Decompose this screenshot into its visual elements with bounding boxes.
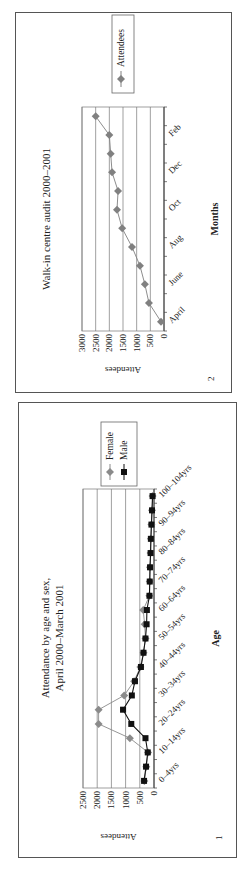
y-tick-label: 2500	[78, 791, 88, 810]
legend: FemaleMale	[101, 422, 137, 486]
chart-title-line1: Attendance by age and sex,	[39, 577, 51, 698]
square-marker	[128, 721, 134, 727]
x-tick-label: 80–84yrs	[156, 525, 187, 556]
square-marker	[138, 664, 144, 670]
legend-label-female: Female	[105, 432, 115, 460]
y-tick-label: 1000	[132, 334, 142, 353]
square-marker	[149, 507, 155, 513]
y-tick-label: 3000	[77, 334, 87, 353]
square-marker	[144, 607, 150, 613]
y-tick-label: 0	[149, 791, 159, 796]
square-marker	[148, 522, 154, 528]
x-tick-label: 30–34yrs	[156, 668, 187, 699]
square-marker	[143, 764, 149, 770]
figure-number: 1	[214, 836, 224, 841]
x-tick-label: 50–54yrs	[156, 611, 187, 642]
square-marker	[132, 678, 138, 684]
square-marker	[120, 707, 126, 713]
x-tick-label: Aug	[166, 232, 184, 250]
y-tick-label: 0	[159, 334, 169, 339]
y-tick-label: 500	[135, 791, 145, 805]
legend-label-attendees: Attendees	[116, 29, 126, 67]
plot-area	[82, 107, 167, 331]
chart-title: Walk-in centre audit 2000–2001	[40, 148, 52, 290]
x-tick-label: 60–64yrs	[156, 582, 187, 613]
y-tick-label: 1500	[118, 334, 128, 353]
y-axis-label: Attendees	[100, 832, 136, 842]
square-marker	[147, 564, 153, 570]
x-tick-label: June	[166, 269, 185, 288]
legend-square-icon	[121, 469, 127, 475]
square-marker	[141, 778, 147, 784]
square-marker	[150, 493, 156, 499]
y-tick-label: 500	[145, 334, 155, 348]
square-marker	[144, 621, 150, 627]
square-marker	[146, 593, 152, 599]
square-marker	[148, 550, 154, 556]
y-axis-label: Attendees	[105, 365, 141, 375]
x-tick-label: Feb	[166, 121, 183, 138]
x-tick-label: 0–4yrs	[156, 760, 181, 785]
x-tick-label: 20–24yrs	[156, 696, 187, 727]
figure-2-frame: 2Walk-in centre audit 2000–2001050010001…	[15, 12, 232, 393]
figure-2-chart: 2Walk-in centre audit 2000–2001050010001…	[16, 13, 232, 393]
x-tick-label: 90–94yrs	[156, 497, 187, 528]
chart-title-line2: April 2000–March 2001	[53, 585, 65, 692]
x-axis-label: Age	[210, 630, 221, 647]
figure-number: 2	[206, 377, 216, 382]
x-tick-label: Dec	[166, 158, 183, 175]
y-tick-label: 1500	[106, 791, 116, 810]
legend-label-male: Male	[119, 440, 129, 460]
square-marker	[129, 692, 135, 698]
x-tick-label: April	[166, 304, 187, 325]
square-marker	[148, 536, 154, 542]
y-tick-label: 2500	[91, 334, 101, 353]
x-tick-label: 70–74yrs	[156, 554, 187, 585]
legend: Attendees	[112, 15, 134, 93]
figure-1-chart: 1Attendance by age and sex,April 2000–Ma…	[19, 403, 237, 858]
square-marker	[142, 735, 148, 741]
x-tick-label: 40–44yrs	[156, 639, 187, 670]
y-tick-label: 2000	[92, 791, 102, 810]
square-marker	[147, 579, 153, 585]
square-marker	[142, 636, 148, 642]
x-tick-label: 100–104yrs	[156, 462, 193, 499]
x-tick-label: 10–14yrs	[156, 725, 187, 756]
figure-1-frame: 1Attendance by age and sex,April 2000–Ma…	[18, 402, 237, 858]
y-tick-label: 2000	[104, 334, 114, 353]
x-axis-label: Months	[209, 203, 220, 236]
y-tick-label: 1000	[121, 791, 131, 810]
square-marker	[140, 650, 146, 656]
x-tick-label: Oct	[166, 196, 183, 213]
square-marker	[145, 749, 151, 755]
